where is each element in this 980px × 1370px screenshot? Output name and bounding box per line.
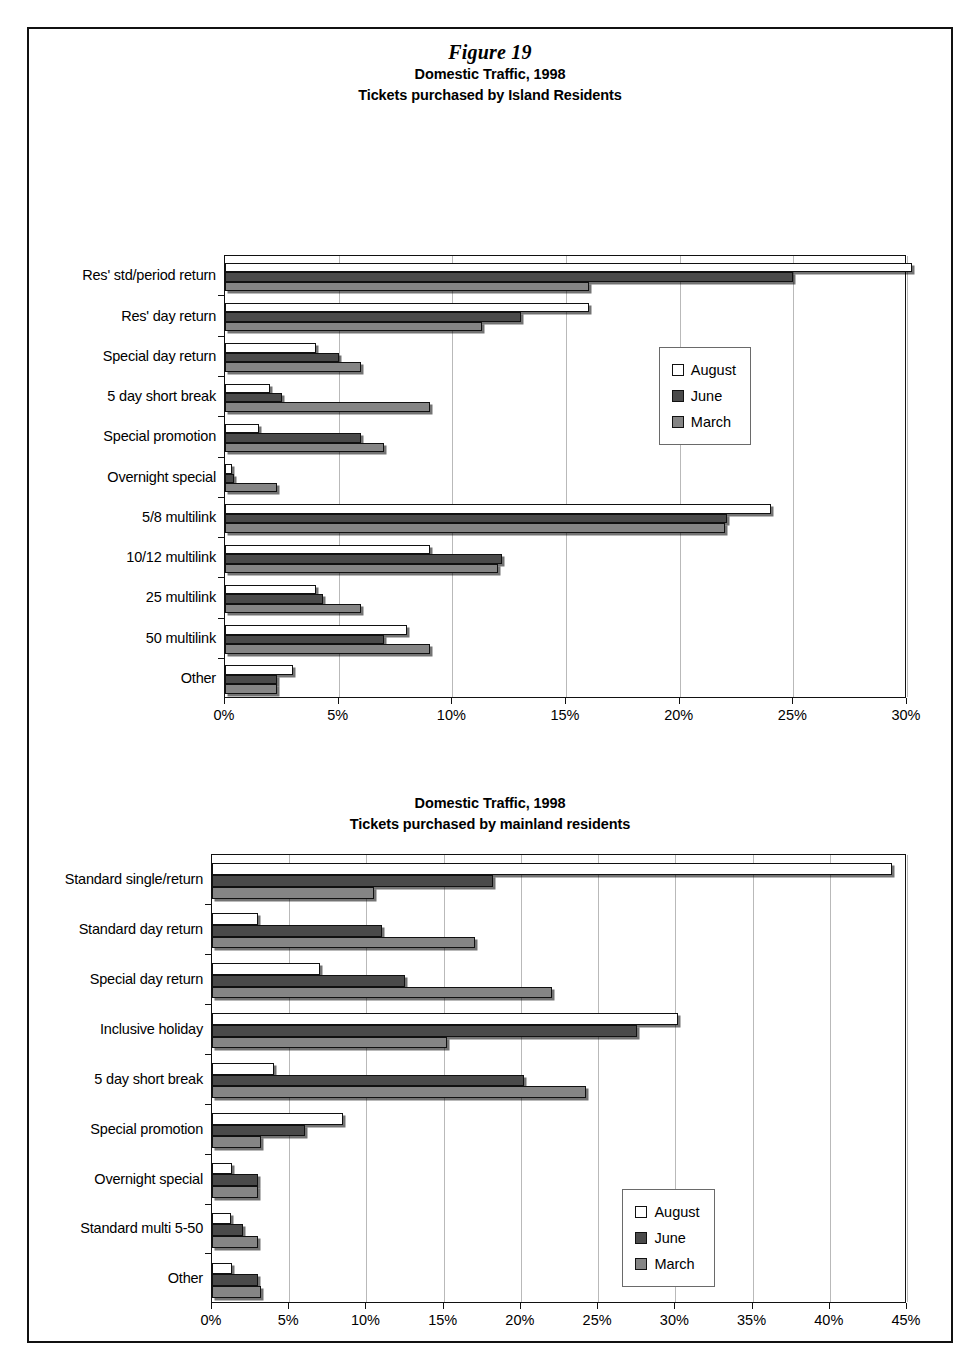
bar-august — [225, 585, 316, 594]
x-tick-mark — [752, 1303, 753, 1309]
x-tick-label: 20% — [505, 1312, 534, 1328]
bar-august — [225, 303, 589, 312]
legend-label: August — [691, 362, 736, 378]
x-tick-mark — [365, 1303, 366, 1309]
legend-label: August — [654, 1204, 699, 1220]
bar-march — [212, 887, 374, 899]
y-tick-mark — [218, 457, 224, 458]
chart1-y-axis-labels: Res' std/period returnRes' day returnSpe… — [29, 255, 224, 698]
legend-label: March — [691, 414, 731, 430]
category-label: 10/12 multilink — [126, 549, 216, 565]
legend-item-august[interactable]: August — [672, 357, 736, 383]
category-label: Special promotion — [103, 428, 216, 444]
legend-swatch-icon — [635, 1232, 647, 1244]
x-tick-mark — [674, 1303, 675, 1309]
legend-swatch-icon — [635, 1258, 647, 1270]
bar-march — [212, 1136, 261, 1148]
chart2-legend: AugustJuneMarch — [622, 1189, 714, 1287]
bar-june — [212, 975, 405, 987]
chart1-title-group: Domestic Traffic, 1998 Tickets purchased… — [29, 64, 951, 105]
bar-june — [212, 1274, 258, 1286]
y-tick-mark — [205, 1253, 211, 1254]
bar-june — [212, 1174, 258, 1186]
x-tick-label: 5% — [327, 707, 348, 723]
bar-august — [225, 343, 316, 352]
x-tick-mark — [906, 698, 907, 704]
bar-august — [212, 1113, 343, 1125]
x-tick-mark — [211, 1303, 212, 1309]
x-tick-label: 10% — [351, 1312, 380, 1328]
x-tick-label: 20% — [664, 707, 693, 723]
legend-label: March — [654, 1256, 694, 1272]
category-label: Other — [181, 670, 216, 686]
category-label: Overnight special — [94, 1171, 203, 1187]
bar-june — [212, 875, 493, 887]
bar-march — [212, 937, 475, 949]
legend-item-march[interactable]: March — [672, 409, 736, 435]
x-tick-mark — [443, 1303, 444, 1309]
bar-june — [225, 393, 282, 402]
chart1-plot — [224, 255, 906, 698]
category-label: Standard single/return — [65, 871, 203, 887]
chart2-plot-area: Standard single/returnStandard day retur… — [29, 834, 951, 1343]
category-label: Other — [168, 1270, 203, 1286]
category-label: Res' std/period return — [82, 267, 216, 283]
legend-label: June — [654, 1230, 685, 1246]
y-tick-mark — [218, 416, 224, 417]
chart1-plot-area: Res' std/period returnRes' day returnSpe… — [29, 105, 951, 738]
chart-island-residents: Domestic Traffic, 1998 Tickets purchased… — [29, 64, 951, 738]
figure-border: Figure 19 Domestic Traffic, 1998 Tickets… — [27, 27, 953, 1343]
bar-august — [225, 504, 771, 513]
bar-august — [212, 913, 258, 925]
x-tick-label: 30% — [660, 1312, 689, 1328]
legend-item-august[interactable]: August — [635, 1199, 699, 1225]
x-tick-label: 40% — [814, 1312, 843, 1328]
legend-swatch-icon — [672, 416, 684, 428]
bar-august — [225, 625, 407, 634]
chart2-y-axis-labels: Standard single/returnStandard day retur… — [29, 854, 211, 1303]
bar-march — [225, 483, 277, 492]
bar-march — [212, 1186, 258, 1198]
y-tick-mark — [205, 1104, 211, 1105]
category-label: 50 multilink — [146, 630, 216, 646]
y-tick-mark — [218, 376, 224, 377]
category-label: 25 multilink — [146, 589, 216, 605]
legend-swatch-icon — [672, 364, 684, 376]
x-tick-mark — [288, 1303, 289, 1309]
bar-june — [212, 1125, 305, 1137]
bar-march — [225, 443, 384, 452]
x-tick-mark — [829, 1303, 830, 1309]
x-tick-label: 25% — [778, 707, 807, 723]
legend-item-june[interactable]: June — [635, 1225, 699, 1251]
gridline — [680, 256, 681, 697]
bar-june — [212, 1224, 243, 1236]
legend-item-march[interactable]: March — [635, 1251, 699, 1277]
x-tick-label: 0% — [201, 1312, 222, 1328]
category-label: Res' day return — [121, 308, 216, 324]
figure-page: Figure 19 Domestic Traffic, 1998 Tickets… — [0, 0, 980, 1370]
gridline — [753, 855, 754, 1302]
bar-august — [225, 464, 232, 473]
bar-june — [212, 1075, 524, 1087]
x-tick-label: 15% — [428, 1312, 457, 1328]
bar-march — [225, 604, 361, 613]
x-tick-label: 10% — [437, 707, 466, 723]
figure-label: Figure 19 — [29, 41, 951, 64]
bar-march — [212, 1037, 447, 1049]
y-tick-mark — [218, 295, 224, 296]
gridline — [566, 256, 567, 697]
category-label: Inclusive holiday — [100, 1021, 203, 1037]
x-tick-label: 0% — [214, 707, 235, 723]
chart2-subtitle: Tickets purchased by mainland residents — [29, 814, 951, 835]
bar-june — [225, 554, 502, 563]
y-tick-mark — [205, 954, 211, 955]
legend-item-june[interactable]: June — [672, 383, 736, 409]
bar-march — [225, 322, 482, 331]
bar-august — [212, 1013, 678, 1025]
chart2-title: Domestic Traffic, 1998 — [415, 795, 566, 811]
x-tick-mark — [565, 698, 566, 704]
gridline — [907, 855, 908, 1302]
bar-june — [225, 312, 521, 321]
chart2-title-group: Domestic Traffic, 1998 Tickets purchased… — [29, 793, 951, 834]
bar-august — [212, 863, 892, 875]
